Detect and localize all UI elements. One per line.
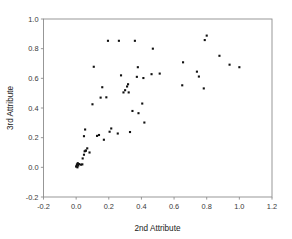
data-point — [81, 163, 83, 165]
data-point — [196, 71, 198, 73]
x-tick-label: 1.0 — [234, 202, 244, 211]
y-tick-label: 0.6 — [28, 74, 38, 83]
data-point — [203, 87, 205, 89]
plot-canvas: -0.20.00.20.40.60.81.01.2 -0.20.00.20.40… — [0, 0, 292, 239]
data-point — [124, 89, 126, 91]
data-point — [110, 127, 112, 129]
data-point — [126, 85, 128, 87]
y-axis-ticks: -0.20.00.20.40.60.81.0 — [26, 15, 44, 202]
y-tick-label: -0.2 — [26, 193, 39, 202]
data-point — [229, 64, 231, 66]
y-tick-label: 0.8 — [28, 44, 38, 53]
data-point — [82, 157, 84, 159]
data-point — [136, 76, 138, 78]
data-point — [181, 84, 183, 86]
data-point — [100, 97, 102, 99]
data-point — [141, 103, 143, 105]
data-point — [134, 40, 136, 42]
y-tick-label: 1.0 — [28, 15, 38, 24]
data-point — [218, 55, 220, 57]
data-point — [109, 131, 111, 133]
x-tick-label: 0.8 — [202, 202, 212, 211]
data-point — [159, 73, 161, 75]
data-point — [117, 132, 119, 134]
data-point — [182, 61, 184, 63]
data-point — [131, 110, 133, 112]
x-axis-title: 2nd Attribute — [135, 224, 181, 233]
data-point — [118, 40, 120, 42]
scatter-plot-figure: -0.20.00.20.40.60.81.01.2 -0.20.00.20.40… — [0, 0, 292, 239]
x-tick-label: 0.2 — [104, 202, 114, 211]
data-point — [78, 163, 80, 165]
y-axis-title: 3rd Attribute — [6, 85, 15, 130]
plot-frame — [44, 19, 273, 197]
y-tick-label: 0.2 — [28, 133, 38, 142]
data-point — [85, 150, 87, 152]
data-point — [96, 135, 98, 137]
x-axis-ticks: -0.20.00.20.40.60.81.01.2 — [37, 197, 277, 211]
x-tick-label: -0.2 — [37, 202, 50, 211]
data-point — [152, 48, 154, 50]
data-point — [88, 151, 90, 153]
data-points-group — [75, 35, 240, 169]
data-point — [91, 103, 93, 105]
data-point — [129, 131, 131, 133]
x-tick-label: 1.2 — [267, 202, 277, 211]
data-point — [83, 154, 85, 156]
x-tick-label: 0.4 — [136, 202, 146, 211]
data-point — [101, 86, 103, 88]
x-tick-label: 0.0 — [71, 202, 81, 211]
y-tick-label: 0.0 — [28, 163, 38, 172]
x-tick-label: 0.6 — [169, 202, 179, 211]
data-point — [122, 91, 124, 93]
data-point — [120, 74, 122, 76]
data-point — [143, 121, 145, 123]
data-point — [103, 139, 105, 141]
data-point — [238, 66, 240, 68]
data-point — [142, 77, 144, 79]
y-tick-label: 0.4 — [28, 104, 38, 113]
data-point — [83, 135, 85, 137]
data-point — [206, 35, 208, 37]
data-point — [98, 134, 100, 136]
data-point — [84, 128, 86, 130]
data-point — [137, 112, 139, 114]
data-point — [204, 39, 206, 41]
data-point — [127, 83, 129, 85]
data-point — [198, 76, 200, 78]
data-point — [137, 66, 139, 68]
data-point — [105, 96, 107, 98]
data-point — [93, 66, 95, 68]
data-point — [107, 40, 109, 42]
data-point — [128, 91, 130, 93]
data-point — [150, 73, 152, 75]
data-point — [86, 147, 88, 149]
